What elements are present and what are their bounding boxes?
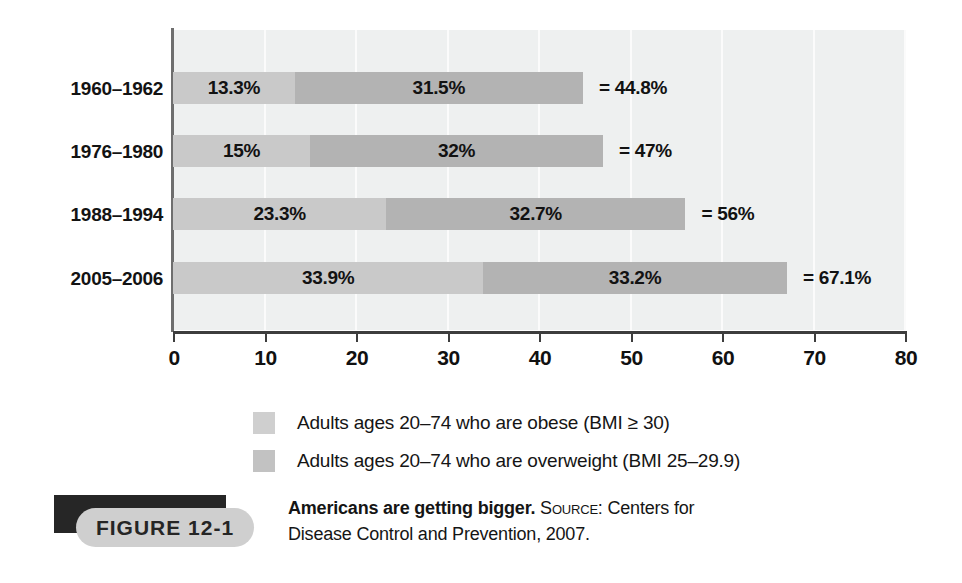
x-axis-tick-label: 30: [419, 346, 479, 370]
x-axis-tick-mark: [173, 331, 175, 342]
figure-tag-pill: FIGURE 12-1: [76, 508, 254, 547]
x-axis-tick-mark: [631, 331, 633, 342]
legend-item[interactable]: Adults ages 20–74 who are obese (BMI ≥ 3…: [253, 404, 873, 442]
bar-segment-value: 15%: [223, 140, 260, 162]
caption-title: Americans are getting bigger.: [288, 498, 535, 518]
bar-segment-value: 23.3%: [253, 203, 305, 225]
figure-container: 1960–19621976–19801988–19942005–2006 13.…: [0, 0, 962, 583]
caption-source-label: Source:: [540, 498, 603, 518]
x-axis-tick-label: 20: [327, 346, 387, 370]
bar-segment-value: 13.3%: [208, 77, 260, 99]
x-axis-tick-mark: [722, 331, 724, 342]
x-axis-tick-label: 10: [236, 346, 296, 370]
x-axis-tick-label: 50: [602, 346, 662, 370]
bar-segment-value: 32%: [438, 140, 475, 162]
bar-row: 15%32%= 47%: [173, 135, 905, 167]
category-axis-labels: 1960–19621976–19801988–19942005–2006: [0, 0, 163, 340]
x-axis-tick-mark: [539, 331, 541, 342]
category-label: 1960–1962: [3, 78, 163, 100]
x-axis-tick-label: 70: [785, 346, 845, 370]
x-axis-tick-mark: [905, 331, 907, 342]
bar-segment-obese: 23.3%: [173, 198, 386, 230]
legend-swatch-icon: [253, 412, 275, 434]
x-axis-tick-mark: [814, 331, 816, 342]
figure-caption-text: Americans are getting bigger. Source: Ce…: [288, 495, 718, 547]
figure-number-label: FIGURE 12-1: [96, 516, 234, 540]
x-axis-tick-label: 80: [876, 346, 936, 370]
bar-total-label: = 67.1%: [803, 262, 871, 294]
x-axis-tick-mark: [265, 331, 267, 342]
bar-row: 23.3%32.7%= 56%: [173, 198, 905, 230]
chart-legend: Adults ages 20–74 who are obese (BMI ≥ 3…: [253, 404, 873, 480]
bar-segment-overweight: 32.7%: [386, 198, 685, 230]
bar-total-label: = 56%: [701, 198, 754, 230]
bar-segment-value: 31.5%: [413, 77, 465, 99]
x-axis-tick-label: 40: [510, 346, 570, 370]
bar-total-label: = 47%: [619, 135, 672, 167]
legend-item[interactable]: Adults ages 20–74 who are overweight (BM…: [253, 442, 873, 480]
figure-caption-block: FIGURE 12-1 Americans are getting bigger…: [0, 487, 962, 583]
x-axis-tick-label: 60: [693, 346, 753, 370]
legend-label: Adults ages 20–74 who are obese (BMI ≥ 3…: [297, 412, 670, 434]
x-axis-tick-mark: [356, 331, 358, 342]
bar-segment-overweight: 33.2%: [483, 262, 787, 294]
bar-segment-obese: 13.3%: [173, 72, 295, 104]
x-axis-tick-mark: [448, 331, 450, 342]
bar-segment-value: 33.2%: [609, 267, 661, 289]
category-label: 2005–2006: [3, 268, 163, 290]
bar-segment-overweight: 32%: [310, 135, 603, 167]
category-label: 1988–1994: [3, 204, 163, 226]
category-label: 1976–1980: [3, 141, 163, 163]
bar-segment-value: 33.9%: [302, 267, 354, 289]
bar-total-label: = 44.8%: [599, 72, 667, 104]
x-axis-tick-label: 0: [144, 346, 204, 370]
bar-segment-overweight: 31.5%: [295, 72, 583, 104]
bar-segment-obese: 15%: [173, 135, 310, 167]
bar-segment-value: 32.7%: [510, 203, 562, 225]
bar-row: 33.9%33.2%= 67.1%: [173, 262, 905, 294]
figure-number-tag: FIGURE 12-1: [54, 495, 254, 547]
bar-segment-obese: 33.9%: [173, 262, 483, 294]
legend-label: Adults ages 20–74 who are overweight (BM…: [297, 450, 740, 472]
legend-swatch-icon: [253, 450, 275, 472]
bar-row: 13.3%31.5%= 44.8%: [173, 72, 905, 104]
